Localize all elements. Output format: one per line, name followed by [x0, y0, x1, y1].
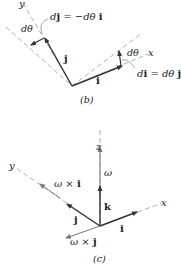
vector-j: [67, 204, 100, 226]
vector-i-label: i: [96, 75, 100, 86]
leader-dj: [41, 19, 48, 34]
di-equation: di = dθ j: [137, 68, 181, 79]
vector-diagram: y dj = −dθ i dθ j dθ x di = dθ j i (b): [0, 0, 181, 268]
vector-j-label: j: [73, 214, 78, 225]
angle-label-right: dθ: [127, 47, 139, 58]
omega-cross-j-label: ω × j: [70, 236, 97, 247]
y-axis-label: y: [8, 160, 15, 171]
vector-k-label: k: [104, 201, 112, 212]
vector-i-label: i: [120, 223, 124, 234]
caption-b: (b): [80, 94, 94, 105]
x-axis-label: x: [161, 197, 167, 208]
dj-equation: dj = −dθ i: [50, 11, 103, 22]
omega-label: ω: [104, 167, 112, 178]
vector-j-label: j: [63, 53, 68, 64]
x-axis-label: x: [148, 47, 154, 58]
z-axis-label: z: [95, 141, 102, 152]
vector-i: [100, 212, 137, 226]
x-prime-axis-line: [72, 33, 142, 86]
caption-c: (c): [93, 253, 106, 264]
y-prime-axis-line: [6, 27, 72, 86]
panel-c: z ω ω × i y k x j i ω × j (c): [8, 130, 167, 264]
vector-di: [119, 51, 121, 66]
vector-j: [45, 38, 72, 86]
y-axis-label: y: [18, 0, 25, 9]
panel-b: y dj = −dθ i dθ j dθ x di = dθ j i (b): [6, 0, 181, 105]
angle-label-left: dθ: [21, 23, 33, 34]
omega-cross-i-label: ω × i: [54, 178, 81, 189]
vector-dj: [31, 38, 44, 45]
